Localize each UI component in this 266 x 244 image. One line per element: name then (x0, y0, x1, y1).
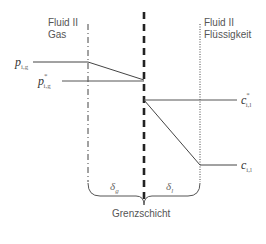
c-interface-label: c*i,l (241, 93, 251, 109)
c-bulk-sub: i,l (246, 166, 252, 174)
p-bulk-label: pi,g (15, 55, 28, 71)
delta-gas-sub: g (115, 187, 119, 195)
boundary-layer-label: Grenzschicht (112, 208, 170, 220)
c-interface-sup: * (246, 91, 250, 99)
gas-title-line1: Fluid II (48, 17, 78, 29)
delta-liquid-sub: l (171, 187, 173, 195)
liquid-title-line1: Fluid II (204, 17, 251, 29)
liquid-title-line2: Flüssigkeit (204, 29, 251, 41)
c-interface-sub: i,l (246, 101, 252, 109)
p-interface-sup: * (44, 72, 48, 80)
gas-title-line2: Gas (48, 29, 78, 41)
p-bulk-sub: i,g (21, 63, 28, 71)
gas-phase-title: Fluid II Gas (48, 17, 78, 41)
p-interface-label: p*i,g (38, 74, 51, 90)
c-bulk-label: ci,l (241, 158, 252, 174)
delta-liquid-label: δl (166, 180, 173, 195)
p-interface-sub: i,g (44, 82, 51, 90)
delta-gas-label: δg (110, 180, 119, 195)
concentration-profile (144, 100, 237, 165)
liquid-phase-title: Fluid II Flüssigkeit (204, 17, 251, 41)
